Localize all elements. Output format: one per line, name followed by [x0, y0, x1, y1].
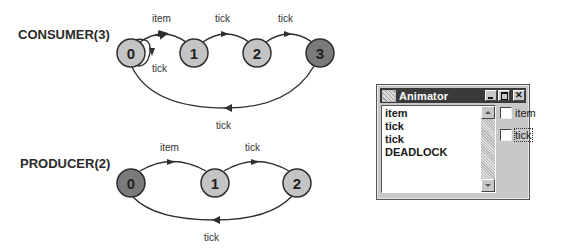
- svg-text:0: 0: [127, 175, 135, 192]
- item-checkbox-label[interactable]: item: [515, 107, 536, 119]
- producer-process-label: PRODUCER(2): [20, 156, 110, 171]
- trace-scrollbar[interactable]: [481, 106, 495, 192]
- consumer-edge-label-self-tick: tick: [152, 63, 168, 74]
- svg-text:0: 0: [127, 45, 135, 62]
- svg-text:2: 2: [253, 45, 261, 62]
- producer-edge-0-1: [140, 162, 206, 172]
- producer-state-0-current: 0: [117, 169, 145, 197]
- consumer-edge-label-item: item: [152, 13, 171, 24]
- scroll-down-button[interactable]: [481, 179, 495, 192]
- producer-edge-label-item: item: [160, 142, 179, 153]
- consumer-edge-label-tick-1: tick: [215, 13, 231, 24]
- producer-state-2: 2: [283, 169, 311, 197]
- consumer-edge-label-return-tick: tick: [216, 120, 232, 131]
- consumer-state-1: 1: [180, 39, 208, 67]
- tick-checkbox-label[interactable]: tick: [515, 129, 532, 141]
- trace-item: item: [385, 107, 447, 120]
- consumer-state-2: 2: [243, 39, 271, 67]
- consumer-edge-1-2: [203, 34, 249, 42]
- close-button[interactable]: ✕: [513, 90, 525, 101]
- scroll-up-button[interactable]: [481, 106, 495, 119]
- svg-text:1: 1: [211, 175, 219, 192]
- svg-text:3: 3: [316, 45, 324, 62]
- trace-item-deadlock: DEADLOCK: [385, 146, 447, 159]
- app-icon: [382, 90, 396, 102]
- consumer-state-3-current: 3: [306, 39, 334, 67]
- trace-item: tick: [385, 120, 447, 133]
- item-checkbox[interactable]: [500, 107, 512, 119]
- maximize-button[interactable]: [498, 90, 510, 101]
- trace-list[interactable]: item tick tick DEADLOCK: [381, 105, 496, 193]
- producer-edge-label-tick: tick: [245, 142, 261, 153]
- consumer-state-0: 0: [117, 39, 145, 67]
- animator-titlebar[interactable]: Animator ✕: [380, 88, 526, 103]
- producer-edge-2-0: [133, 196, 292, 220]
- consumer-process-label: CONSUMER(3): [18, 27, 110, 42]
- action-item-row[interactable]: item: [500, 106, 536, 120]
- producer-state-1: 1: [201, 169, 229, 197]
- consumer-edge-2-3: [266, 34, 312, 42]
- animator-window: Animator ✕ item tick tick DEADLOCK item …: [377, 85, 529, 199]
- minimize-button[interactable]: [485, 90, 497, 101]
- svg-text:2: 2: [293, 175, 301, 192]
- svg-text:1: 1: [190, 45, 198, 62]
- arrow-down-icon: [485, 184, 491, 187]
- action-tick-row[interactable]: tick: [500, 128, 536, 142]
- window-title: Animator: [399, 90, 448, 102]
- action-checkboxes: item tick: [500, 106, 536, 150]
- tick-checkbox[interactable]: [500, 129, 512, 141]
- consumer-edge-label-tick-2: tick: [278, 13, 294, 24]
- producer-edge-label-return-tick: tick: [204, 232, 220, 243]
- trace-item: tick: [385, 133, 447, 146]
- arrow-up-icon: [485, 111, 491, 114]
